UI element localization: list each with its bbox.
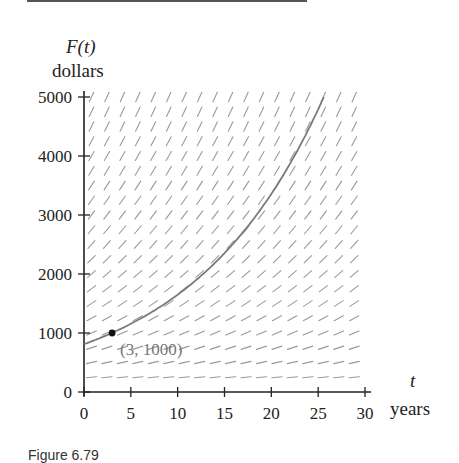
slope-segment bbox=[197, 151, 202, 160]
slope-segment bbox=[303, 377, 313, 378]
slope-segment bbox=[228, 92, 232, 101]
slope-segment bbox=[303, 316, 312, 321]
slope-segment bbox=[119, 226, 126, 234]
slope-segment bbox=[226, 286, 234, 292]
slope-segment bbox=[150, 226, 157, 234]
slope-segment bbox=[351, 226, 358, 234]
slope-segment bbox=[275, 107, 279, 116]
slope-segment bbox=[334, 361, 344, 363]
slope-segment bbox=[336, 166, 341, 175]
slope-segment bbox=[289, 196, 295, 205]
slope-segment bbox=[226, 346, 236, 349]
slope-segment bbox=[273, 241, 280, 249]
slope-segment bbox=[166, 181, 172, 190]
slope-segment bbox=[273, 271, 281, 278]
slope-segment bbox=[134, 286, 142, 292]
slope-segment bbox=[289, 226, 296, 234]
slope-segment bbox=[305, 211, 311, 219]
slope-segment bbox=[213, 92, 217, 101]
slope-segment bbox=[213, 151, 218, 160]
slope-segment bbox=[349, 377, 359, 378]
slope-segment bbox=[351, 211, 357, 219]
slope-segment bbox=[165, 226, 172, 234]
slope-segment bbox=[306, 92, 310, 101]
slope-segment bbox=[164, 361, 174, 363]
slope-segment bbox=[335, 286, 343, 292]
slope-segment bbox=[334, 316, 343, 321]
slope-segment bbox=[226, 301, 235, 307]
slope-segment bbox=[244, 137, 249, 146]
slope-segment bbox=[273, 256, 280, 263]
slope-segment bbox=[212, 211, 218, 219]
slope-segment bbox=[290, 137, 295, 146]
slope-segment bbox=[336, 181, 342, 190]
slope-segment bbox=[303, 346, 313, 349]
slope-segment bbox=[182, 92, 186, 101]
slope-segment bbox=[337, 107, 341, 116]
slope-segment bbox=[289, 241, 296, 249]
slope-segment bbox=[197, 107, 201, 116]
slope-segment bbox=[118, 286, 126, 292]
slope-segment bbox=[165, 286, 173, 292]
slope-segment bbox=[150, 256, 157, 263]
slope-segment bbox=[321, 166, 326, 175]
slope-segment bbox=[179, 361, 189, 363]
y-tick-label: 3000 bbox=[38, 206, 72, 225]
slope-segment bbox=[165, 241, 172, 249]
slope-segment bbox=[104, 181, 110, 190]
slope-segment bbox=[273, 286, 281, 292]
slope-segment bbox=[259, 151, 264, 160]
slope-segment bbox=[319, 331, 329, 335]
slope-segment bbox=[243, 211, 249, 219]
slope-segment bbox=[150, 196, 156, 205]
slope-segment bbox=[118, 316, 127, 321]
slope-segment bbox=[149, 316, 158, 321]
slope-segment bbox=[89, 196, 95, 205]
slope-segment bbox=[289, 256, 296, 263]
slope-segment bbox=[259, 181, 265, 190]
slope-segment bbox=[151, 92, 155, 101]
slope-segment bbox=[102, 377, 112, 378]
slope-segment bbox=[225, 377, 235, 378]
slope-segment bbox=[304, 241, 311, 249]
slope-segment bbox=[242, 271, 250, 278]
slope-segment bbox=[134, 256, 141, 263]
slope-segment bbox=[105, 122, 110, 131]
slope-segment bbox=[120, 166, 125, 175]
slope-segment bbox=[228, 137, 233, 146]
slope-segment bbox=[288, 301, 297, 307]
x-tick-label: 15 bbox=[216, 404, 233, 423]
x-tick-label: 0 bbox=[80, 404, 89, 423]
slope-segment bbox=[349, 361, 359, 363]
slope-segment bbox=[167, 107, 171, 116]
slope-segment bbox=[335, 256, 342, 263]
slope-segment bbox=[151, 122, 156, 131]
slope-segment bbox=[182, 107, 186, 116]
slope-segment bbox=[320, 196, 326, 205]
slope-segment bbox=[241, 346, 251, 349]
slope-segment bbox=[243, 196, 249, 205]
slope-segment bbox=[210, 377, 220, 378]
slope-segment bbox=[288, 331, 298, 335]
slope-segment bbox=[148, 361, 158, 363]
slope-segment bbox=[120, 107, 124, 116]
slope-segment bbox=[351, 241, 358, 249]
slope-segment bbox=[88, 241, 95, 249]
slope-segment bbox=[350, 301, 359, 307]
slope-segment bbox=[89, 122, 94, 131]
slope-segment bbox=[304, 286, 312, 292]
slope-segment bbox=[288, 316, 297, 321]
slope-segment bbox=[197, 196, 203, 205]
slope-segment bbox=[166, 137, 171, 146]
slope-segment bbox=[290, 181, 296, 190]
slope-segment bbox=[244, 92, 248, 101]
slope-segment bbox=[272, 316, 281, 321]
slope-segment bbox=[351, 196, 357, 205]
slope-segment bbox=[151, 166, 156, 175]
slope-segment bbox=[210, 331, 220, 335]
figure-caption: Figure 6.79 bbox=[28, 447, 99, 463]
slope-segment bbox=[102, 346, 112, 349]
slope-segment bbox=[211, 316, 220, 321]
slope-segment bbox=[304, 301, 313, 307]
